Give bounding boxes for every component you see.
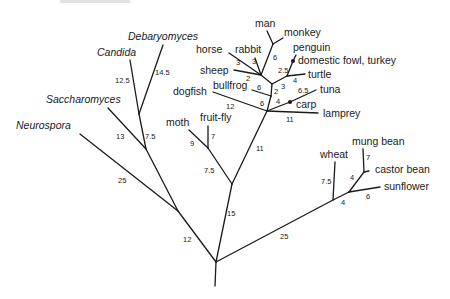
label-mung-bean: mung bean (352, 135, 405, 147)
bl-sunflower: 6 (366, 192, 370, 201)
bl-vertebrate-stem: 11 (256, 144, 264, 153)
label-rabbit: rabbit (235, 43, 261, 55)
label-fruit-fly: fruit-fly (200, 111, 232, 123)
bl-sheep: 2 (246, 74, 250, 83)
branch-neurospora (80, 134, 178, 211)
bl-lamprey: 11 (286, 115, 294, 124)
branch-candida (130, 60, 139, 114)
label-domestic-fowl-turkey: domestic fowl, turkey (298, 54, 397, 66)
label-sheep: sheep (200, 64, 229, 76)
bl-plant-inner: 4 (341, 198, 345, 207)
carp-node-dot (288, 100, 292, 104)
bl-sacch-stem: 7.5 (145, 132, 155, 141)
phylogenetic-tree: Neurospora Saccharomyces Candida Debaryo… (0, 0, 450, 299)
branch-saccharomyces (108, 108, 146, 149)
branch-castor-bean (364, 171, 369, 172)
branch-dogfish (213, 92, 267, 111)
label-dogfish: dogfish (173, 85, 207, 97)
bl-insect-stem: 7.5 (204, 166, 214, 175)
branch-sunflower (349, 187, 380, 192)
bl-amniote-stem: 2 (274, 87, 278, 96)
bl-birds: 2.5 (278, 66, 288, 75)
bl-moth: 9 (190, 139, 194, 148)
label-tuna: tuna (320, 83, 341, 95)
label-man: man (255, 17, 276, 29)
label-castor-bean: castor bean (375, 163, 430, 175)
bl-tetrapod-stem: 6 (260, 99, 264, 108)
bl-rabbit: 3 (252, 57, 256, 66)
branch-root-animal (216, 184, 232, 262)
branch-amniote-stem (271, 84, 272, 96)
branch-monkey (273, 38, 283, 44)
bl-mung-bean: 7 (366, 153, 370, 162)
bl-root-fungi: 12 (183, 235, 191, 244)
branch-primate-stem (261, 44, 273, 75)
bl-candida: 12.5 (115, 76, 130, 85)
branch-tetrapod-stem (267, 96, 271, 111)
label-candida: Candida (97, 46, 136, 58)
bl-tuna: 6.5 (298, 86, 308, 95)
bl-castor-stem: 4 (350, 173, 354, 182)
label-penguin: penguin (293, 41, 331, 53)
root-trunk (215, 262, 216, 286)
label-turtle: turtle (308, 68, 332, 80)
branch-man (267, 31, 273, 44)
branch-mung-bean (363, 149, 364, 172)
bl-neurospora: 25 (118, 176, 126, 185)
branch-mammal-stem (261, 75, 272, 84)
label-saccharomyces: Saccharomyces (46, 93, 121, 105)
bl-saccharomyces: 13 (116, 132, 124, 141)
branch-wheat (333, 162, 335, 200)
bl-fruit-fly: 7 (211, 132, 215, 141)
bl-turtle: 4 (293, 76, 297, 85)
bl-root-plant: 25 (280, 232, 288, 241)
label-bullfrog: bullfrog (213, 79, 248, 91)
label-horse: horse (196, 43, 222, 55)
bird-node-dot (291, 59, 295, 63)
branch-debaryomyces (139, 45, 163, 114)
bl-reptbird-stem: 3 (281, 82, 285, 91)
bl-primate-stem: 6 (273, 53, 277, 62)
label-moth: moth (166, 116, 190, 128)
bl-horse: 3 (236, 58, 240, 67)
bl-debaryomyces: 14.5 (155, 68, 170, 77)
bl-root-animal: 15 (227, 209, 235, 218)
label-carp: carp (296, 98, 317, 110)
bl-wheat: 7.5 (321, 177, 331, 186)
branch-bullfrog (252, 90, 271, 96)
label-monkey: monkey (284, 26, 322, 38)
bl-dogfish: 12 (226, 102, 234, 111)
label-sunflower: sunflower (384, 180, 429, 192)
bl-bullfrog: 6 (257, 83, 261, 92)
label-neurospora: Neurospora (16, 119, 71, 131)
bl-fish-stem: 4 (276, 97, 280, 106)
branch-sacch-stem (146, 149, 178, 211)
label-lamprey: lamprey (323, 107, 361, 119)
branch-lamprey (267, 111, 318, 113)
label-debaryomyces: Debaryomyces (128, 30, 199, 42)
label-wheat: wheat (319, 148, 348, 160)
